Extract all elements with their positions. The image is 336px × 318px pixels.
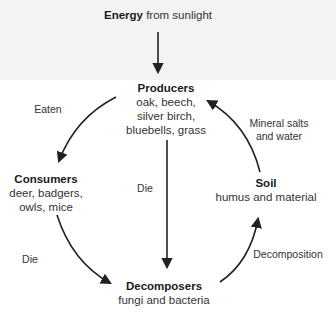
- decomposers-line: fungi and bacteria: [118, 293, 209, 307]
- producers-line: bluebells, grass: [126, 123, 206, 137]
- node-decomposers: Decomposers fungi and bacteria: [118, 279, 209, 307]
- edge-label-die-left: Die: [22, 253, 38, 266]
- node-consumers: Consumers deer, badgers, owls, mice: [9, 172, 83, 214]
- node-producers: Producers oak, beech, silver birch, blue…: [126, 81, 206, 137]
- producers-line: oak, beech,: [126, 95, 206, 109]
- node-soil: Soil humus and material: [216, 176, 317, 204]
- edge-label-die-center: Die: [137, 182, 153, 195]
- energy-rest: from sunlight: [146, 9, 212, 21]
- producers-line: silver birch,: [126, 109, 206, 123]
- mineral-line: Mineral salts: [250, 117, 309, 130]
- consumers-title: Consumers: [9, 172, 83, 186]
- energy-source-label: Energy from sunlight: [104, 9, 212, 21]
- cycle-arrows: [0, 0, 336, 318]
- soil-title: Soil: [216, 176, 317, 190]
- mineral-line: and water: [250, 130, 309, 143]
- arrow-producers-to-consumers: [59, 97, 116, 161]
- decomposers-title: Decomposers: [118, 279, 209, 293]
- consumers-line: owls, mice: [9, 200, 83, 214]
- producers-title: Producers: [126, 81, 206, 95]
- energy-bold: Energy: [104, 9, 143, 21]
- soil-line: humus and material: [216, 190, 317, 204]
- arrow-consumers-to-decomposers: [57, 215, 110, 283]
- edge-label-decomposition: Decomposition: [253, 248, 322, 261]
- edge-label-mineral-salts: Mineral salts and water: [250, 117, 309, 143]
- consumers-line: deer, badgers,: [9, 186, 83, 200]
- edge-label-eaten: Eaten: [34, 103, 61, 116]
